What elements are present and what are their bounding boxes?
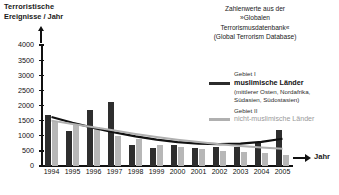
legend-series1-detail2: Südasien, Südostasien) (234, 96, 339, 104)
chart-page: Terroristische Ereignisse / Jahr Zahlenw… (0, 0, 339, 195)
bar-muslim-2002 (213, 147, 220, 166)
y-tick-label: 1000 (4, 132, 34, 139)
x-tick-label-1994: 1994 (41, 168, 63, 175)
x-tick-label-2003: 2003 (230, 168, 252, 175)
legend-series1-detail1: (mittlerer Osten, Nordafrika, (234, 88, 339, 96)
bar-non-muslim-1996 (94, 127, 101, 166)
y-tick-label: 1500 (4, 117, 34, 124)
legend-series2-category: Gebiet II (234, 107, 339, 115)
bar-muslim-2003 (234, 147, 241, 166)
y-tick-label: 3500 (4, 57, 34, 64)
legend-item-muslim: muslimische Länder (209, 78, 339, 88)
legend-series1-name: muslimische Länder (234, 78, 339, 88)
bar-muslim-2000 (171, 145, 178, 166)
x-tick-label-2000: 2000 (167, 168, 189, 175)
legend-series1-category: Gebiet I (234, 70, 339, 78)
y-tick-label: 500 (4, 147, 34, 154)
bar-muslim-1999 (150, 148, 157, 166)
bar-non-muslim-2005 (283, 155, 290, 166)
bar-non-muslim-1999 (157, 145, 164, 166)
y-axis-title-line2: Ereignisse / Jahr (4, 12, 63, 22)
legend-swatch-light (209, 118, 230, 121)
y-tick-label: 0 (4, 162, 34, 169)
bar-muslim-1995 (66, 131, 73, 166)
y-axis-title-line1: Terroristische (4, 2, 54, 12)
bar-non-muslim-1998 (136, 139, 143, 166)
source-note-line1: Zahlenwerte aus der (176, 4, 334, 13)
source-note-line3: Terrorismusdatenbank« (176, 23, 334, 32)
bar-muslim-1996 (87, 110, 94, 166)
bar-non-muslim-1994 (52, 121, 59, 166)
x-tick-label-1997: 1997 (104, 168, 126, 175)
bar-muslim-2001 (192, 148, 199, 166)
y-tick-label: 2000 (4, 102, 34, 109)
x-tick-label-2005: 2005 (272, 168, 294, 175)
arrow-up-stem (40, 30, 42, 43)
bar-muslim-1998 (129, 145, 136, 166)
legend-swatch-dark (209, 82, 230, 85)
x-tick-label-1996: 1996 (83, 168, 105, 175)
bar-non-muslim-2004 (262, 153, 269, 166)
y-tick-label: 4000 (4, 41, 34, 48)
bar-non-muslim-2002 (220, 151, 227, 166)
bar-muslim-2005 (276, 130, 283, 166)
bar-muslim-1997 (108, 102, 115, 166)
source-note-line2: »Globalen (176, 13, 334, 22)
bar-non-muslim-2001 (199, 149, 206, 166)
bar-muslim-2004 (255, 142, 262, 166)
legend-series2-name: nicht-muslimische Länder (234, 115, 339, 125)
x-tick-label-1995: 1995 (62, 168, 84, 175)
x-tick-label-1998: 1998 (125, 168, 147, 175)
legend-item-non-muslim: nicht-muslimische Länder (209, 115, 339, 125)
x-tick-label-2004: 2004 (251, 168, 273, 175)
source-note-line4: (Global Terrorism Database) (176, 32, 334, 41)
bar-non-muslim-1995 (73, 124, 80, 166)
bar-muslim-1994 (45, 115, 52, 166)
bar-non-muslim-1997 (115, 136, 122, 166)
source-note: Zahlenwerte aus der »Globalen Terrorismu… (176, 4, 334, 41)
bar-non-muslim-2000 (178, 147, 185, 166)
x-tick-label-2002: 2002 (209, 168, 231, 175)
arrow-right-icon (305, 154, 311, 162)
y-tick-label: 2500 (4, 87, 34, 94)
legend: Gebiet I muslimische Länder (mittlerer O… (209, 70, 339, 124)
x-tick-label-2001: 2001 (188, 168, 210, 175)
bar-non-muslim-2003 (241, 152, 248, 166)
x-tick-label-1999: 1999 (146, 168, 168, 175)
x-axis-title: Jahr (314, 152, 330, 161)
y-tick-label: 3000 (4, 72, 34, 79)
